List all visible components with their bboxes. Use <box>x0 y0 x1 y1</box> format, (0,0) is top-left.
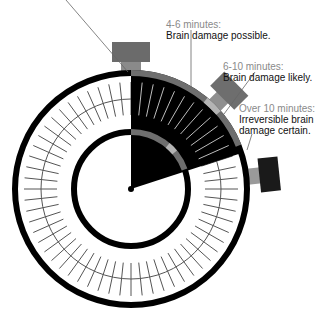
callout-4-6-desc: Brain damage possible. <box>166 30 271 41</box>
stopwatch-crown <box>112 42 150 74</box>
callout-over-10: Over 10 minutes: Irreversible brain dama… <box>239 103 315 136</box>
callout-over-10-time: Over 10 minutes: <box>239 103 315 114</box>
callout-6-10: 6-10 minutes: Brain damage likely. <box>223 61 312 83</box>
stopwatch-diagram <box>0 0 322 314</box>
callout-over-10-desc-line2: damage certain. <box>239 125 315 136</box>
callout-4-6-time: 4-6 minutes: <box>166 19 271 30</box>
callout-4-6: 4-6 minutes: Brain damage possible. <box>166 19 271 41</box>
center-pivot <box>128 186 134 192</box>
callout-over-10-desc-line1: Irreversible brain <box>239 114 315 125</box>
leader-line-top <box>66 0 128 72</box>
callout-6-10-time: 6-10 minutes: <box>223 61 312 72</box>
callout-6-10-desc: Brain damage likely. <box>223 72 312 83</box>
leader-line-over-10 <box>247 134 252 150</box>
stopwatch-button-right <box>246 157 281 194</box>
